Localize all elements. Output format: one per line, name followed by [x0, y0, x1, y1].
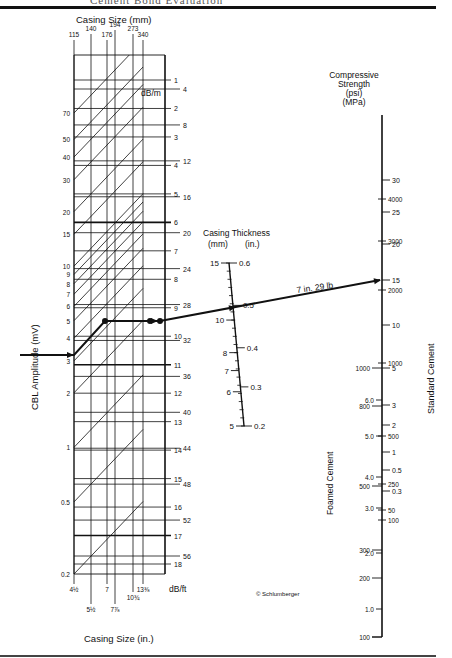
casing-thickness-in-label: (in.): [245, 239, 260, 249]
db-m-tick-label: 24: [183, 266, 191, 273]
result-arrowhead: [374, 278, 381, 284]
standard-psi-label: 3000: [388, 238, 403, 245]
casing-size-in-tick-label: 5½: [86, 606, 96, 613]
casing-thickness-mm-label: 8: [223, 349, 228, 358]
db-ft-title: dB/ft: [169, 584, 187, 594]
cbl-amplitude-tick-label: 2: [66, 390, 70, 397]
casing-size-in-title: Casing Size (in.): [84, 633, 154, 644]
compressive-strength-title-4: (MPa): [342, 97, 365, 107]
db-m-tick-label: 4: [183, 86, 187, 93]
casing-thickness-mm-label: 6: [226, 388, 231, 397]
grid-arrowhead: [151, 318, 158, 324]
db-m-tick-label: 52: [183, 517, 191, 524]
cbl-amplitude-tick-label: 6: [66, 303, 70, 310]
casing-size-in-tick-label: 13⅜: [137, 586, 150, 593]
casing-size-in-tick-label: 4½: [69, 586, 79, 593]
casing-thickness-in-label: 0.4: [247, 344, 259, 353]
amplitude-grid: [74, 30, 180, 604]
db-ft-tick-label: 2: [174, 105, 178, 112]
standard-mpa-label: 2: [392, 422, 396, 429]
db-ft-tick-label: 14: [174, 447, 182, 454]
db-m-tick-label: 36: [183, 373, 191, 380]
casing-thickness-in-label: 0.6: [239, 259, 251, 268]
standard-mpa-label: 3: [392, 402, 396, 409]
db-ft-tick-label: 10: [174, 333, 182, 340]
standard-mpa-label: 10: [392, 322, 400, 329]
standard-mpa-label: 0.5: [392, 467, 402, 474]
cbl-amplitude-tick-label: 4: [66, 335, 70, 342]
scale-ticks: 1154½1405½17671947⅞27310¾34013⅜123456789…: [61, 21, 403, 641]
db-ft-tick-label: 15: [174, 476, 182, 483]
cbl-amplitude-tick-label: 1: [66, 444, 70, 451]
db-ft-tick-label: 5: [174, 191, 178, 198]
casing-size-in-tick-label: 7: [105, 586, 109, 593]
standard-mpa-label: 25: [392, 209, 400, 216]
cbl-amplitude-tick-label: 10: [63, 263, 71, 270]
foamed-psi-label: 800: [359, 403, 370, 410]
foamed-psi-label: 100: [359, 634, 370, 641]
db-m-tick-label: 16: [183, 194, 191, 201]
casing-size-mm-tick-label: 176: [102, 31, 113, 38]
db-m-tick-label: 20: [183, 230, 191, 237]
standard-mpa-label: 15: [392, 277, 400, 284]
cbl-amplitude-tick-label: 8: [66, 281, 70, 288]
cbl-amplitude-tick-label: 9: [66, 271, 70, 278]
example-path-line: [20, 321, 160, 355]
cbl-amplitude-tick-label: 40: [63, 154, 71, 161]
db-ft-tick-label: 8: [174, 276, 178, 283]
conversion-diagonal: [74, 55, 129, 113]
db-m-tick-label: 12: [183, 158, 191, 165]
standard-mpa-label: 1: [392, 449, 396, 456]
foamed-cement-label: Foamed Cement: [325, 451, 335, 515]
standard-psi-label: 2000: [388, 287, 403, 294]
cbl-amplitude-tick-label: 5: [66, 318, 70, 325]
casing-thickness-mm-label: (mm): [208, 239, 228, 249]
copyright-notice: © Schlumberger: [256, 591, 299, 597]
casing-thickness-mm-label: 5: [230, 422, 235, 431]
cbl-amplitude-title: CBL Amplitude (mV): [29, 324, 40, 410]
db-m-tick-label: 40: [183, 409, 191, 416]
cbl-amplitude-tick-label: 3: [66, 358, 70, 365]
db-ft-tick-label: 12: [174, 390, 182, 397]
example-result-line: [160, 280, 380, 321]
casing-thickness-title: Casing Thickness: [203, 228, 270, 238]
db-m-tick-label: 48: [183, 481, 191, 488]
casing-size-mm-tick-label: 140: [86, 25, 97, 32]
casing-size-in-tick-label: 7⅞: [110, 606, 120, 613]
standard-psi-label: 1000: [388, 360, 403, 367]
foamed-mpa-label: 4.0: [365, 474, 374, 481]
db-ft-tick-label: 17: [174, 533, 182, 540]
standard-psi-label: 100: [388, 517, 399, 524]
standard-psi-label: 250: [388, 481, 399, 488]
foamed-psi-label: 200: [359, 575, 370, 582]
cbl-amplitude-tick-label: 0.5: [61, 499, 70, 506]
foamed-mpa-label: 6.0: [365, 397, 374, 404]
db-m-tick-label: 44: [183, 445, 191, 452]
foamed-mpa-label: 1.0: [365, 606, 374, 613]
cbl-amplitude-tick-label: 50: [63, 136, 71, 143]
cbl-amplitude-tick-label: 15: [63, 231, 71, 238]
foamed-psi-label: 500: [359, 483, 370, 490]
cbl-amplitude-tick-label: 20: [63, 209, 71, 216]
db-ft-tick-label: 7: [174, 248, 178, 255]
cbl-amplitude-tick-label: 30: [63, 177, 71, 184]
db-ft-tick-label: 6: [174, 219, 178, 226]
casing-size-mm-tick-label: 340: [138, 31, 149, 38]
db-ft-tick-label: 4: [174, 162, 178, 169]
db-m-tick-label: 8: [183, 122, 187, 129]
foamed-mpa-label: 3.0: [365, 505, 374, 512]
foamed-mpa-label: 5.0: [365, 433, 374, 440]
db-ft-tick-label: 9: [174, 305, 178, 312]
casing-thickness-in-label: 0.2: [254, 422, 266, 431]
cbl-amplitude-tick-label: 0.2: [61, 571, 70, 578]
standard-psi-label: 500: [388, 433, 399, 440]
standard-cement-label: Standard Cement: [426, 343, 436, 414]
db-ft-tick-label: 1: [174, 77, 178, 84]
casing-thickness-mm-label: 10: [215, 316, 224, 325]
casing-thickness-in-label: 0.3: [250, 383, 262, 392]
db-ft-tick-label: 16: [174, 504, 182, 511]
standard-psi-label: 4000: [388, 196, 403, 203]
db-ft-tick-label: 18: [174, 561, 182, 568]
standard-mpa-label: 30: [392, 177, 400, 184]
standard-mpa-label: 0.3: [392, 488, 402, 495]
